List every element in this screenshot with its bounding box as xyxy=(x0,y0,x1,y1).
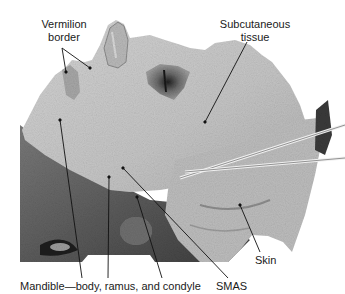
label-skin: Skin xyxy=(255,254,276,267)
label-subcutaneous-tissue: Subcutaneous tissue xyxy=(215,18,295,44)
dissection-figure: Vermilion border Subcutaneous tissue Ski… xyxy=(0,0,345,294)
dissection-photo xyxy=(0,0,345,294)
label-vermilion-border: Vermilion border xyxy=(34,18,94,44)
label-mandible: Mandible—body, ramus, and condyle xyxy=(20,280,201,293)
label-smas: SMAS xyxy=(216,280,247,293)
